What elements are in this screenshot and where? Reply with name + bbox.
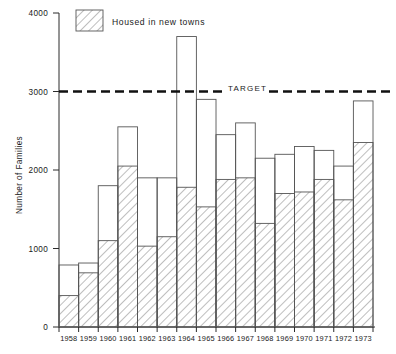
target-label: TARGET (228, 84, 267, 93)
x-tick-label: 1959 (80, 334, 97, 343)
x-tick-label: 1964 (178, 334, 195, 343)
legend-swatch-housed-in-new-towns (76, 10, 103, 31)
bar-segment-housed-in-new-towns (216, 179, 236, 327)
bar-segment-housed-in-new-towns (295, 192, 315, 327)
y-axis-title: Number of Families (15, 136, 24, 214)
x-tick-label: 1968 (256, 334, 273, 343)
y-tick-label: 4000 (29, 9, 49, 18)
x-tick-label: 1961 (119, 334, 136, 343)
bar-segment-housed-in-new-towns (196, 207, 216, 327)
x-tick-label: 1960 (99, 334, 116, 343)
chart-svg: 4000 3000 2000 1000 0 Number of Families… (0, 0, 396, 354)
x-tick-label: 1966 (217, 334, 234, 343)
x-tick-label: 1963 (158, 334, 175, 343)
y-tick-label: 1000 (29, 245, 49, 254)
bar-chart: 4000 3000 2000 1000 0 Number of Families… (0, 0, 396, 354)
x-tick-label: 1970 (296, 334, 313, 343)
x-tick-label: 1969 (276, 334, 293, 343)
x-tick-label: 1973 (355, 334, 372, 343)
bar-segment-housed-in-new-towns (177, 187, 197, 327)
bar-segment-housed-in-new-towns (353, 143, 373, 327)
bar-segment-housed-in-new-towns (314, 179, 334, 327)
bar-segment-housed-in-new-towns (255, 223, 275, 327)
legend-label-housed-in-new-towns: Housed in new towns (112, 17, 205, 27)
bar-segment-housed-in-new-towns (157, 237, 177, 327)
y-tick-label: 0 (43, 323, 48, 332)
bar-segment-housed-in-new-towns (59, 296, 79, 327)
x-tick-label: 1958 (60, 334, 77, 343)
y-tick-label: 2000 (29, 166, 49, 175)
bar-segment-housed-in-new-towns (334, 200, 354, 327)
bar-segment-housed-in-new-towns (118, 166, 138, 327)
bar-segment-housed-in-new-towns (138, 246, 158, 327)
x-tick-label: 1965 (198, 334, 215, 343)
x-tick-label: 1972 (335, 334, 352, 343)
bar-segment-housed-in-new-towns (79, 273, 99, 327)
bar-segment-housed-in-new-towns (275, 194, 295, 327)
x-tick-label: 1967 (237, 334, 254, 343)
bar-segment-housed-in-new-towns (236, 178, 256, 327)
x-tick-label: 1971 (315, 334, 332, 343)
y-tick-label: 3000 (29, 88, 49, 97)
bar-segment-housed-in-new-towns (98, 241, 118, 327)
x-tick-label: 1962 (139, 334, 156, 343)
